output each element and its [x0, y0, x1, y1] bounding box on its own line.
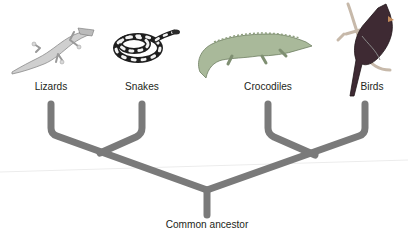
snake-icon — [116, 30, 180, 61]
root-label-common-ancestor: Common ancestor — [159, 218, 256, 230]
lizard-icon — [12, 28, 94, 74]
taxon-label-birds: Birds — [353, 80, 392, 92]
tree-graphic — [0, 0, 408, 238]
taxon-label-crocodiles: Crocodiles — [237, 80, 299, 92]
taxon-label-snakes: Snakes — [116, 80, 169, 92]
tree-branches — [51, 104, 365, 215]
cladogram-diagram: Lizards Snakes Crocodiles Birds Common a… — [0, 0, 408, 238]
taxon-label-lizards: Lizards — [25, 80, 78, 92]
crocodile-icon — [199, 33, 313, 78]
